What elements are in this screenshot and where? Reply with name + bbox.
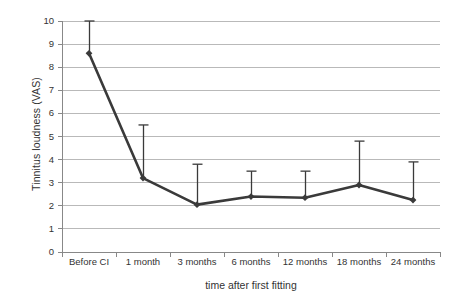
y-axis-tick-label: 10 — [28, 16, 54, 26]
x-axis-tick-label-18-months: 18 months — [332, 256, 386, 267]
x-axis-tick-label-3-months: 3 months — [170, 256, 224, 267]
chart-plot-area — [0, 0, 463, 300]
y-axis-ticks — [58, 21, 62, 252]
x-axis-tick-label-before-ci: Before CI — [62, 256, 116, 267]
x-axis-tick-label-6-months: 6 months — [224, 256, 278, 267]
y-axis-tick-label: 5 — [28, 132, 54, 142]
y-axis-tick-label: 0 — [28, 247, 54, 257]
error-bars — [85, 21, 419, 205]
y-axis-tick-label: 3 — [28, 178, 54, 188]
y-axis-tick-label: 8 — [28, 62, 54, 72]
y-axis-tick-label: 1 — [28, 224, 54, 234]
x-axis-tick-label-1-month: 1 month — [116, 256, 170, 267]
y-axis-tick-label: 6 — [28, 108, 54, 118]
chart-container: Tinnitus loudness (VAS) time after first… — [0, 0, 463, 300]
y-axis-tick-label: 4 — [28, 155, 54, 165]
x-axis-tick-label-12-months: 12 months — [278, 256, 332, 267]
y-axis-tick-label: 9 — [28, 39, 54, 49]
gridlines — [62, 21, 440, 252]
y-axis-tick-label: 2 — [28, 201, 54, 211]
y-axis-tick-label: 7 — [28, 85, 54, 95]
x-axis-tick-label-24-months: 24 months — [386, 256, 440, 267]
x-axis-title: time after first fitting — [62, 279, 440, 291]
